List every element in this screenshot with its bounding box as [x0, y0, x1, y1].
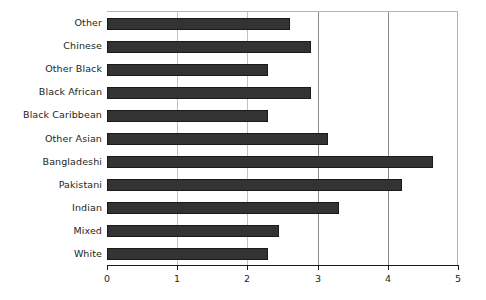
y-axis-tick-label: White — [0, 248, 102, 259]
bar-chart: OtherChineseOther BlackBlack AfricanBlac… — [0, 0, 486, 300]
y-axis-tick-label: Other Asian — [0, 133, 102, 144]
x-axis-tick-label: 3 — [303, 273, 333, 284]
bar — [107, 225, 279, 237]
y-axis-tick-label: Other Black — [0, 63, 102, 74]
x-axis-tick — [177, 265, 178, 270]
y-axis-tick-label: Black African — [0, 86, 102, 97]
x-axis-tick-label: 5 — [443, 273, 473, 284]
bar — [107, 18, 290, 30]
y-axis-tick-label: Other — [0, 17, 102, 28]
bar — [107, 179, 402, 191]
x-axis-tick-label: 2 — [232, 273, 262, 284]
x-axis-tick — [247, 265, 248, 270]
x-axis-tick-label: 0 — [92, 273, 122, 284]
bar — [107, 110, 268, 122]
x-axis-tick — [458, 265, 459, 270]
x-axis-tick-label: 1 — [162, 273, 192, 284]
bar — [107, 202, 339, 214]
bar — [107, 64, 268, 76]
y-axis-tick-label: Black Caribbean — [0, 109, 102, 120]
bar — [107, 41, 311, 53]
y-axis-tick-label: Chinese — [0, 40, 102, 51]
x-axis-tick — [318, 265, 319, 270]
bar — [107, 133, 328, 145]
gridline-x-4 — [388, 12, 389, 266]
bar — [107, 87, 311, 99]
x-axis-line — [107, 265, 459, 266]
y-axis-tick-label: Pakistani — [0, 179, 102, 190]
x-axis-tick — [107, 265, 108, 270]
y-axis-tick-label: Bangladeshi — [0, 156, 102, 167]
bar — [107, 156, 433, 168]
y-axis-category-labels: OtherChineseOther BlackBlack AfricanBlac… — [0, 11, 102, 265]
x-axis-tick — [388, 265, 389, 270]
bar — [107, 248, 268, 260]
y-axis-tick-label: Mixed — [0, 225, 102, 236]
x-axis-tick-label: 4 — [373, 273, 403, 284]
plot-area — [107, 11, 458, 265]
y-axis-tick-label: Indian — [0, 202, 102, 213]
